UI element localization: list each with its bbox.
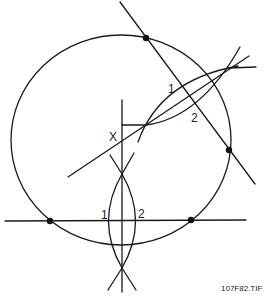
lower-arc-bottom-left-tail — [108, 268, 122, 290]
horizontal-chord-line — [5, 220, 246, 221]
upper-arc-1 — [138, 66, 238, 142]
point-top — [143, 35, 149, 41]
main-circle — [11, 35, 231, 245]
point-left — [47, 218, 53, 224]
lower-arc-top-right-tail — [122, 153, 134, 174]
point-right — [226, 147, 232, 153]
label-lower-1: 1 — [101, 208, 108, 222]
upper-bisector-line — [68, 56, 249, 177]
label-upper-2: 2 — [191, 111, 198, 125]
lower-arc-top-left-tail — [110, 155, 122, 174]
label-lower-2: 2 — [138, 207, 145, 221]
figure-caption: 107F82.TIF — [221, 284, 262, 293]
label-center-x: X — [109, 130, 117, 144]
construction-diagram: 1 2 X 1 2 107F82.TIF — [0, 0, 265, 299]
point-bottom-right — [188, 217, 194, 223]
diagonal-chord-line — [120, 2, 255, 184]
label-upper-1: 1 — [168, 82, 175, 96]
lower-arc-bottom-right-tail — [122, 268, 136, 290]
